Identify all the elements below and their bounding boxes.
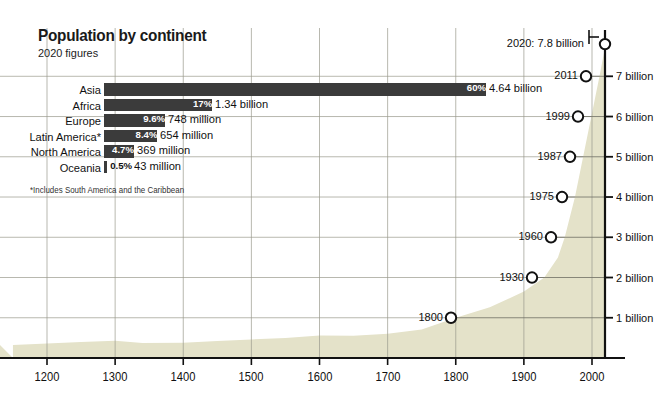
x-axis-tick-label: 1500 bbox=[224, 370, 278, 384]
callout-bracket bbox=[589, 30, 599, 44]
milestone-label: 1987 bbox=[499, 149, 562, 162]
bar-label: North America bbox=[5, 144, 101, 160]
page-subtitle: 2020 figures bbox=[38, 47, 98, 59]
milestone-label: 1930 bbox=[461, 270, 524, 283]
bar-percent: 4.7% bbox=[104, 144, 137, 157]
y-axis-tick-label: 7 billion bbox=[616, 69, 653, 82]
x-axis-tick-label: 2000 bbox=[565, 370, 619, 384]
bar-row: North America4.7%369 million bbox=[0, 144, 560, 160]
bar-label: Asia bbox=[5, 82, 101, 98]
population-timeline-chart bbox=[0, 0, 670, 407]
x-axis-tick-label: 1300 bbox=[88, 370, 142, 384]
bar-value: 654 million bbox=[160, 129, 213, 142]
page-title: Population by continent bbox=[38, 26, 206, 45]
milestone-label: 1999 bbox=[507, 109, 570, 122]
bar-row: Latin America*8.4%654 million bbox=[0, 129, 560, 145]
y-axis-ticks bbox=[605, 76, 613, 317]
x-axis-tick-label: 1800 bbox=[429, 370, 483, 384]
y-axis-tick-label: 5 billion bbox=[616, 150, 653, 163]
bar-value: 748 million bbox=[168, 113, 221, 126]
bar-row: Europe9.6%748 million bbox=[0, 113, 560, 129]
x-axis-tick-label: 1600 bbox=[293, 370, 347, 384]
x-axis-tick-label: 1900 bbox=[497, 370, 551, 384]
bar-label: Oceania bbox=[5, 160, 101, 176]
milestone-label: 1960 bbox=[480, 229, 543, 242]
bar-row: Asia60%4.64 billion bbox=[0, 82, 560, 98]
bar-percent: 60% bbox=[104, 82, 489, 95]
bar-percent: 9.6% bbox=[104, 113, 168, 126]
bar-value: 369 million bbox=[137, 144, 190, 157]
milestone-label: 1800 bbox=[380, 310, 443, 323]
milestone-label: 2011 bbox=[515, 68, 578, 81]
y-axis-tick-label: 2 billion bbox=[616, 271, 653, 284]
y-axis-tick-label: 1 billion bbox=[616, 311, 653, 324]
bar-row: Oceania0.5%43 million bbox=[0, 160, 560, 176]
y-axis-tick-label: 3 billion bbox=[616, 230, 653, 243]
bar-percent: 0.5% bbox=[108, 160, 132, 173]
infographic-root: Population by continent 2020 figures Asi… bbox=[0, 0, 670, 407]
bar-percent: 17% bbox=[104, 98, 215, 111]
callout-label: 2020: 7.8 billion bbox=[470, 36, 584, 49]
bar-row: Africa17%1.34 billion bbox=[0, 98, 560, 114]
bar-label: Europe bbox=[5, 113, 101, 129]
x-axis-tick-label: 1400 bbox=[156, 370, 210, 384]
milestone-label: 1975 bbox=[491, 189, 554, 202]
x-axis-tick-label: 1700 bbox=[361, 370, 415, 384]
bar-track bbox=[104, 161, 107, 174]
y-axis-tick-label: 6 billion bbox=[616, 110, 653, 123]
x-axis-tick-label: 1200 bbox=[20, 370, 74, 384]
bar-percent: 8.4% bbox=[104, 129, 160, 142]
bar-label: Africa bbox=[5, 98, 101, 114]
bar-label: Latin America* bbox=[5, 129, 101, 145]
footnote: *Includes South America and the Caribbea… bbox=[30, 186, 184, 195]
y-axis-tick-label: 4 billion bbox=[616, 190, 653, 203]
continent-bar-list: Asia60%4.64 billionAfrica17%1.34 billion… bbox=[0, 82, 560, 175]
bar-value: 43 million bbox=[134, 160, 181, 173]
bar-value: 1.34 billion bbox=[215, 98, 268, 111]
bar-fill bbox=[104, 161, 107, 174]
bar-value: 4.64 billion bbox=[489, 82, 542, 95]
